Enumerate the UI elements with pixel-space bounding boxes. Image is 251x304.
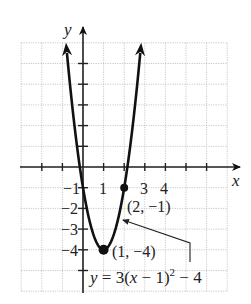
equation-after-x: − 1) — [137, 268, 169, 287]
equation-suffix: − 4 — [175, 268, 202, 287]
y-tick-label-neg3: −3 — [61, 221, 78, 238]
x-tick-label-1: 1 — [99, 180, 107, 197]
equation-mid: = 3( — [98, 268, 131, 287]
point-label-1-neg4: (1, −4) — [112, 243, 156, 261]
y-axis-label: y — [62, 20, 72, 39]
x-tick-label-4: 4 — [160, 180, 168, 197]
x-tick-label-3: 3 — [140, 180, 148, 197]
equation-label: y = 3(x − 1)2 − 4 — [88, 266, 202, 287]
point-vertex-1-neg4 — [99, 245, 109, 255]
y-tick-label-neg4: −4 — [61, 242, 78, 259]
point-2-neg1 — [120, 184, 128, 192]
equation-y: y — [88, 268, 98, 287]
x-tick-label-neg1: −1 — [63, 180, 80, 197]
parabola-graph: y x −1 1 3 4 −2 −3 −4 (2, −1) (1, −4) y … — [0, 0, 251, 304]
point-label-2-neg1: (2, −1) — [127, 198, 171, 216]
y-tick-label-neg2: −2 — [61, 200, 78, 217]
x-axis-label: x — [231, 171, 240, 190]
